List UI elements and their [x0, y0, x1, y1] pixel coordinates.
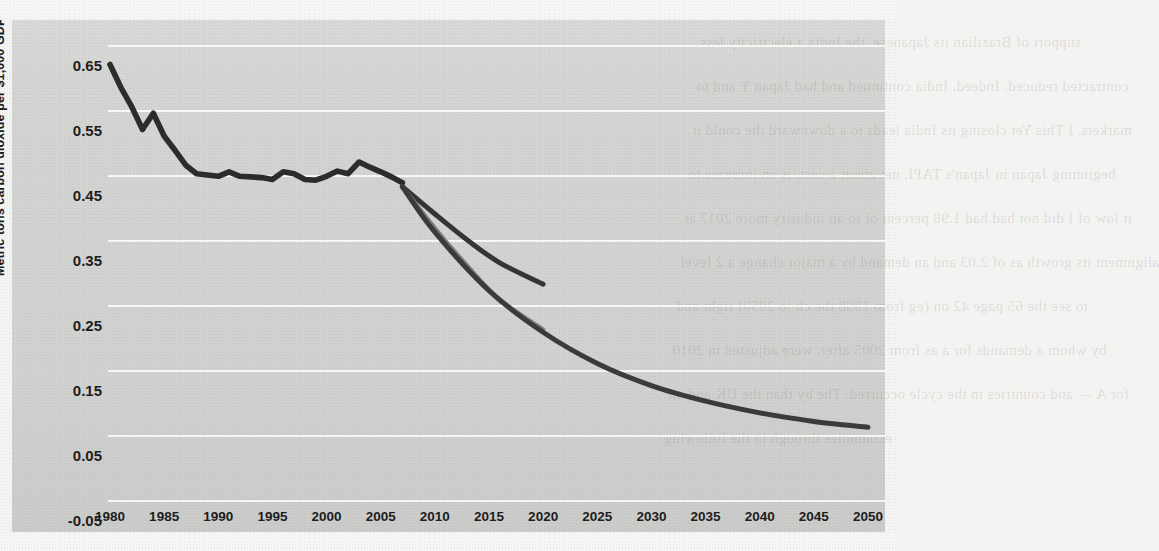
y-tick-label: 0.55: [73, 122, 102, 139]
plot-area: [108, 20, 885, 500]
y-tick-label: 0.45: [73, 187, 102, 204]
gridline: [108, 110, 885, 112]
x-tick-label: 2035: [691, 509, 721, 524]
x-axis-tick-labels: 1980198519901995200020052010201520202025…: [0, 509, 897, 533]
y-tick-label: 0.25: [73, 317, 102, 334]
x-tick-label: 2030: [636, 509, 666, 524]
page-margin-bottom: [0, 532, 897, 551]
x-tick-label: 2010: [420, 509, 450, 524]
gridline: [108, 305, 885, 307]
page-margin-top: [0, 0, 897, 20]
x-tick-label: 2040: [745, 509, 775, 524]
y-axis-title: Metric tons carbon dioxide per $1,000 GD…: [0, 18, 7, 276]
x-tick-label: 1995: [257, 509, 287, 524]
x-tick-label: 2045: [799, 509, 829, 524]
gridline: [108, 500, 885, 502]
gridline: [108, 370, 885, 372]
gridline: [108, 45, 885, 47]
x-tick-label: 2050: [853, 509, 883, 524]
x-tick-label: 2020: [528, 509, 558, 524]
x-tick-label: 1990: [203, 509, 233, 524]
gridline: [108, 435, 885, 437]
y-tick-label: 0.05: [73, 447, 102, 464]
x-tick-label: 2005: [366, 509, 396, 524]
y-axis-tick-labels: 0.65 0.55 0.45 0.35 0.25 0.15 0.05 -0.05: [42, 20, 102, 500]
gridline: [108, 240, 885, 242]
x-tick-label: 1980: [95, 509, 125, 524]
gridline: [108, 175, 885, 177]
y-tick-label: 0.35: [73, 252, 102, 269]
x-tick-label: 1985: [149, 509, 179, 524]
x-tick-label: 2000: [312, 509, 342, 524]
x-tick-label: 2015: [474, 509, 504, 524]
y-tick-label: 0.65: [73, 57, 102, 74]
y-tick-label: 0.15: [73, 382, 102, 399]
x-tick-label: 2025: [582, 509, 612, 524]
